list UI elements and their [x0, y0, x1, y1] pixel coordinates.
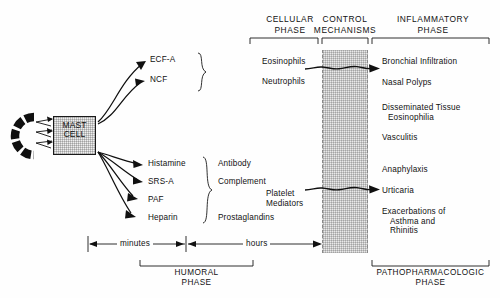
- phase-label-humoral: HUMORAL PHASE: [140, 268, 253, 289]
- phase-label-humoral-line1: HUMORAL: [140, 268, 253, 278]
- mast-cell-mediator-diagram: CELLULAR PHASE CONTROL MECHANISMS INFLAM…: [0, 0, 500, 298]
- phase-label-pathopharmacologic: PATHOPHARMACOLOGIC PHASE: [372, 268, 489, 289]
- phase-brackets: [0, 0, 500, 298]
- phase-label-pathopharmacologic-line2: PHASE: [372, 278, 489, 288]
- phase-label-pathopharmacologic-line1: PATHOPHARMACOLOGIC: [372, 268, 489, 278]
- phase-label-humoral-line2: PHASE: [140, 278, 253, 288]
